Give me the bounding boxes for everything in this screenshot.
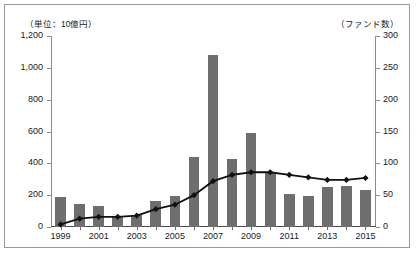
x-tick-label: 2007 bbox=[193, 231, 233, 241]
x-tick-mark bbox=[80, 227, 81, 230]
x-tick-label: 2011 bbox=[269, 231, 309, 241]
line-marker-2011 bbox=[286, 172, 292, 178]
x-tick-label: 2001 bbox=[79, 231, 119, 241]
left-tick-label: 1,200 bbox=[7, 30, 43, 40]
right-tick-label: 50 bbox=[383, 189, 393, 199]
line-marker-2013 bbox=[324, 177, 330, 183]
right-tick-mark bbox=[376, 36, 380, 37]
line-marker-2000 bbox=[76, 216, 82, 222]
right-tick-label: 100 bbox=[383, 157, 398, 167]
right-tick-label: 300 bbox=[383, 30, 398, 40]
x-tick-mark bbox=[289, 227, 290, 230]
x-tick-label: 2003 bbox=[117, 231, 157, 241]
left-tick-label: 200 bbox=[7, 189, 43, 199]
x-tick-mark bbox=[175, 227, 176, 230]
line-marker-2015 bbox=[362, 175, 368, 181]
right-tick-label: 250 bbox=[383, 62, 398, 72]
left-tick-label: 800 bbox=[7, 94, 43, 104]
x-tick-mark bbox=[194, 227, 195, 230]
line-marker-2014 bbox=[343, 177, 349, 183]
x-tick-label: 2009 bbox=[231, 231, 271, 241]
x-tick-mark bbox=[156, 227, 157, 230]
right-tick-mark bbox=[376, 195, 380, 196]
left-tick-label: 0 bbox=[7, 221, 43, 231]
left-tick-label: 1,000 bbox=[7, 62, 43, 72]
x-tick-mark bbox=[137, 227, 138, 230]
x-tick-mark bbox=[232, 227, 233, 230]
x-tick-mark bbox=[251, 227, 252, 230]
right-tick-mark bbox=[376, 227, 380, 228]
line-marker-2003 bbox=[134, 212, 140, 218]
right-tick-label: 0 bbox=[383, 221, 388, 231]
right-tick-mark bbox=[376, 163, 380, 164]
line-marker-2008 bbox=[229, 172, 235, 178]
line-marker-2009 bbox=[248, 169, 254, 175]
x-tick-label: 1999 bbox=[41, 231, 81, 241]
line-series bbox=[51, 36, 376, 227]
x-tick-mark bbox=[327, 227, 328, 230]
x-tick-mark bbox=[346, 227, 347, 230]
left-tick-label: 600 bbox=[7, 126, 43, 136]
left-axis-unit-label: （単位：10億円） bbox=[25, 17, 97, 29]
x-tick-mark bbox=[270, 227, 271, 230]
line-marker-2010 bbox=[267, 169, 273, 175]
left-tick-label: 400 bbox=[7, 157, 43, 167]
left-tick-mark bbox=[47, 227, 51, 228]
x-tick-mark bbox=[213, 227, 214, 230]
line-marker-2005 bbox=[172, 202, 178, 208]
x-tick-label: 2013 bbox=[307, 231, 347, 241]
x-tick-label: 2005 bbox=[155, 231, 195, 241]
x-tick-mark bbox=[365, 227, 366, 230]
x-tick-label: 2015 bbox=[345, 231, 385, 241]
line-marker-2001 bbox=[96, 214, 102, 220]
right-axis-unit-label: （ファンド数） bbox=[336, 17, 399, 29]
line-marker-2012 bbox=[305, 174, 311, 180]
right-tick-label: 150 bbox=[383, 126, 398, 136]
x-tick-mark bbox=[308, 227, 309, 230]
right-tick-mark bbox=[376, 68, 380, 69]
chart-frame: （単位：10億円） （ファンド数） 1,2001,000800600400200… bbox=[4, 4, 410, 248]
line-marker-2002 bbox=[115, 214, 121, 220]
x-tick-mark bbox=[61, 227, 62, 230]
line-marker-2004 bbox=[153, 206, 159, 212]
right-tick-mark bbox=[376, 100, 380, 101]
x-tick-mark bbox=[118, 227, 119, 230]
x-tick-mark bbox=[99, 227, 100, 230]
right-tick-mark bbox=[376, 132, 380, 133]
right-tick-label: 200 bbox=[383, 94, 398, 104]
